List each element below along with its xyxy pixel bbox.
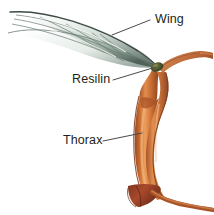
thorax-upper-arm — [158, 51, 213, 73]
thorax-structure — [127, 70, 213, 210]
label-resilin: Resilin — [72, 73, 110, 86]
label-wing: Wing — [155, 13, 184, 26]
wing-structure — [8, 11, 157, 68]
leader-line-wing — [112, 20, 150, 35]
anatomical-illustration — [0, 0, 214, 215]
wing-hinge-figure: Wing Resilin Thorax — [0, 0, 214, 215]
label-thorax: Thorax — [63, 134, 103, 147]
upper-arm-body — [158, 51, 213, 73]
